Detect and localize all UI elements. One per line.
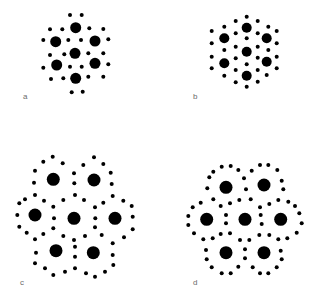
small-dot xyxy=(205,257,209,261)
small-dot xyxy=(81,163,85,167)
small-dot xyxy=(275,265,279,269)
small-dot xyxy=(256,68,260,72)
large-dot xyxy=(50,244,63,257)
small-dot xyxy=(238,238,242,242)
small-dot xyxy=(93,225,97,229)
small-dot xyxy=(111,241,115,245)
small-dot xyxy=(191,205,195,209)
small-dot xyxy=(33,237,37,241)
small-dot xyxy=(297,211,301,215)
small-dot xyxy=(245,85,249,89)
small-dot xyxy=(234,45,238,49)
small-dot xyxy=(237,198,241,202)
small-dot xyxy=(51,273,55,277)
small-dot xyxy=(51,155,55,159)
small-dot xyxy=(73,255,77,259)
small-dot xyxy=(51,226,55,230)
small-dot xyxy=(48,27,52,31)
small-dot xyxy=(256,45,260,49)
small-dot xyxy=(224,213,228,217)
small-dot xyxy=(222,74,226,78)
small-dot xyxy=(86,75,90,79)
small-dot xyxy=(60,27,64,31)
small-dot xyxy=(222,48,226,52)
small-dot xyxy=(62,52,66,56)
small-dot xyxy=(101,201,105,205)
small-dot xyxy=(73,266,77,270)
small-dot xyxy=(199,201,203,205)
large-dot xyxy=(239,213,252,226)
small-dot xyxy=(243,247,247,251)
small-dot xyxy=(93,216,97,220)
small-dot xyxy=(280,179,284,183)
small-dot xyxy=(258,271,262,275)
small-dot xyxy=(122,235,126,239)
small-dot xyxy=(265,73,269,77)
small-dot xyxy=(250,169,254,173)
small-dot xyxy=(224,221,228,225)
small-dot xyxy=(131,215,135,219)
small-dot xyxy=(61,76,65,80)
small-dot xyxy=(207,175,211,179)
small-dot xyxy=(33,193,37,197)
small-dot xyxy=(83,234,87,238)
small-dot xyxy=(210,41,214,45)
small-dot xyxy=(280,257,284,261)
small-dot xyxy=(256,31,260,35)
small-dot xyxy=(32,181,36,185)
small-dot xyxy=(276,237,280,241)
small-dot xyxy=(295,231,299,235)
small-dot xyxy=(236,265,240,269)
large-dot xyxy=(220,181,233,194)
small-dot xyxy=(80,13,84,17)
dot-pattern-figure xyxy=(0,0,316,297)
small-dot xyxy=(101,162,105,166)
small-dot xyxy=(205,186,209,190)
small-dot xyxy=(41,66,45,70)
small-dot xyxy=(111,194,115,198)
small-dot xyxy=(15,213,19,217)
small-dot xyxy=(275,41,279,45)
small-dot xyxy=(61,161,65,165)
small-dot xyxy=(103,270,107,274)
small-dot xyxy=(101,51,105,55)
large-dot xyxy=(47,173,60,186)
large-dot xyxy=(200,213,213,226)
small-dot xyxy=(247,238,251,242)
small-dot xyxy=(251,265,255,269)
small-dot xyxy=(276,198,280,202)
panel-label-b: b xyxy=(193,93,197,101)
small-dot xyxy=(219,232,223,236)
small-dot xyxy=(285,236,289,240)
small-dot xyxy=(279,249,283,253)
small-dot xyxy=(92,155,96,159)
small-dot xyxy=(41,160,45,164)
small-dot xyxy=(249,197,253,201)
small-dot xyxy=(17,225,21,229)
small-dot xyxy=(256,80,260,84)
small-dot xyxy=(79,38,83,42)
small-dot xyxy=(281,187,285,191)
small-dot xyxy=(293,204,297,208)
small-dot xyxy=(244,187,248,191)
small-dot xyxy=(25,231,29,235)
small-dot xyxy=(87,26,91,30)
panel-a xyxy=(41,13,110,94)
large-dot xyxy=(274,213,287,226)
small-dot xyxy=(259,213,263,217)
small-dot xyxy=(93,205,97,209)
small-dot xyxy=(266,25,270,29)
small-dot xyxy=(68,65,72,69)
small-dot xyxy=(275,168,279,172)
small-dot xyxy=(275,55,279,59)
small-dot xyxy=(260,222,264,226)
large-dot xyxy=(90,58,101,69)
small-dot xyxy=(43,266,47,270)
small-dot xyxy=(266,163,270,167)
small-dot xyxy=(111,253,115,257)
large-dot xyxy=(262,33,272,43)
small-dot xyxy=(73,193,77,197)
small-dot xyxy=(267,233,271,237)
small-dot xyxy=(256,19,260,23)
small-dot xyxy=(275,29,279,33)
